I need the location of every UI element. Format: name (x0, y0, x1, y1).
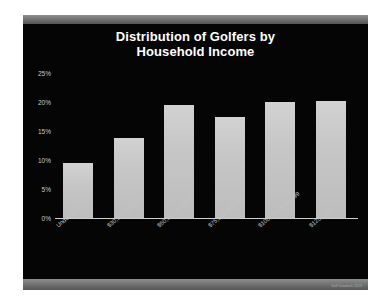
chart-plot-area: 0%5%10%15%20%25% Under $30,000$30,000-$4… (23, 15, 368, 290)
bar (316, 101, 346, 218)
y-axis-tick-label: 15% (23, 128, 51, 135)
y-axis-tick-label: 0% (23, 215, 51, 222)
y-axis-tick-label: 10% (23, 157, 51, 164)
slide-canvas: Distribution of Golfers by Household Inc… (23, 15, 368, 290)
watermark-text: Golf Datatech 2023 (331, 284, 362, 288)
y-axis-tick-label: 25% (23, 70, 51, 77)
y-axis-tick-label: 5% (23, 186, 51, 193)
slide-frame-bottom: Golf Datatech 2023 (23, 279, 368, 290)
y-axis-tick-label: 20% (23, 99, 51, 106)
